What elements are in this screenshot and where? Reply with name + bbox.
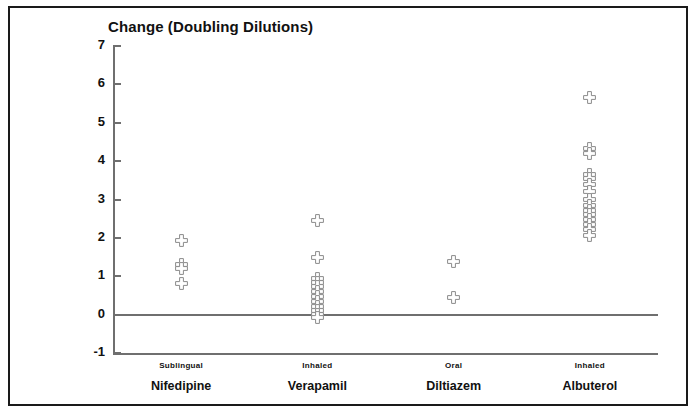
data-point: [175, 262, 188, 275]
zero-reference-line: [113, 314, 658, 316]
x-axis-line: [113, 353, 658, 355]
y-tick-mark: [113, 314, 121, 316]
y-tick-label: 7: [65, 37, 105, 52]
y-tick-mark: [113, 122, 121, 124]
figure-border: Change (Doubling Dilutions) 76543210-1 S…: [8, 6, 688, 406]
y-tick-mark: [113, 83, 121, 85]
y-tick-label: 4: [65, 152, 105, 167]
data-point: [583, 147, 596, 160]
y-tick-label: 0: [65, 306, 105, 321]
y-tick-mark: [113, 160, 121, 162]
data-point: [175, 277, 188, 290]
y-tick-mark: [113, 45, 121, 47]
y-tick-label: -1: [65, 344, 105, 359]
y-tick-label: 5: [65, 114, 105, 129]
data-point: [311, 311, 324, 324]
data-point: [583, 91, 596, 104]
y-tick-label: 2: [65, 229, 105, 244]
data-point: [583, 229, 596, 242]
chart-title: Change (Doubling Dilutions): [108, 18, 313, 35]
group-route-label: Inhaled: [510, 361, 670, 370]
data-point: [175, 234, 188, 247]
y-tick-label: 1: [65, 267, 105, 282]
y-tick-mark: [113, 199, 121, 201]
data-point: [311, 251, 324, 264]
y-tick-mark: [113, 237, 121, 239]
data-point: [447, 255, 460, 268]
figure-canvas: Change (Doubling Dilutions) 76543210-1 S…: [0, 0, 698, 415]
y-tick-mark: [113, 275, 121, 277]
data-point: [447, 291, 460, 304]
group-drug-label: Albuterol: [510, 379, 670, 393]
y-tick-label: 6: [65, 75, 105, 90]
x-group-albuterol: InhaledAlbuterol: [510, 361, 670, 393]
data-point: [311, 214, 324, 227]
y-tick-label: 3: [65, 191, 105, 206]
y-tick-mark: [113, 352, 121, 354]
